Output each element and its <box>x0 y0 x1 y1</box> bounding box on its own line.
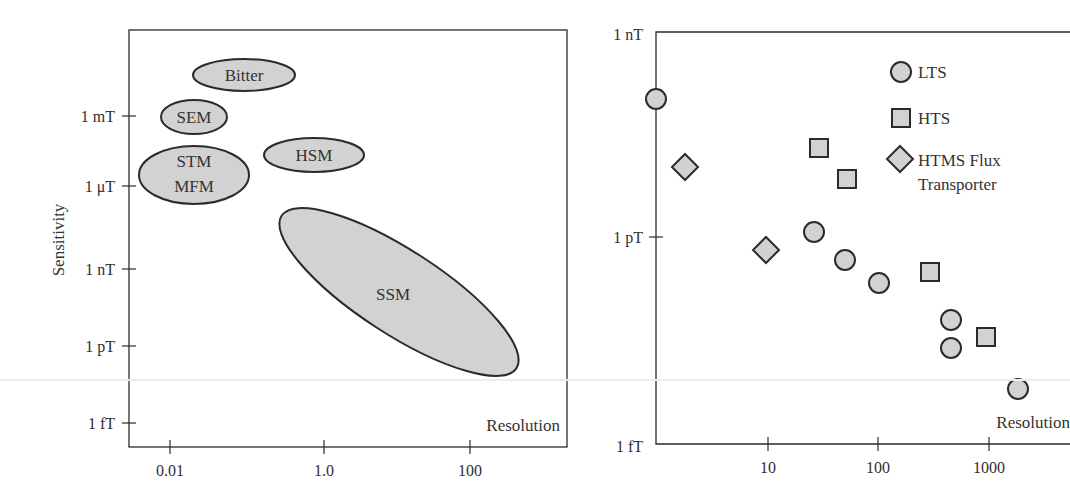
x-tick-label-0.01: 0.01 <box>156 462 184 479</box>
hts-point <box>810 139 828 157</box>
htms-point <box>753 237 779 263</box>
region-ssm: SSM <box>259 181 540 404</box>
region-sem: SEM <box>161 100 227 134</box>
legend-item-lts: LTS <box>891 62 947 82</box>
right-x-axis: 10 100 1000 <box>760 437 1005 476</box>
left-x-axis: 0.01 1.0 100 <box>156 440 482 479</box>
region-hsm: HSM <box>264 138 364 172</box>
lts-point <box>646 89 666 109</box>
diamond-marker-icon <box>887 146 913 172</box>
hts-point <box>838 170 856 188</box>
x-tick-label-100: 100 <box>458 462 482 479</box>
y-tick-label-nT: 1 nT <box>85 261 115 278</box>
lts-point <box>804 222 824 242</box>
legend-label-line1: HTMS Flux <box>918 151 1001 170</box>
legend: LTS HTS HTMS Flux Transporter <box>887 62 1001 194</box>
region-label: SSM <box>376 285 410 304</box>
region-label-line1: STM <box>177 152 212 171</box>
htms-point <box>672 154 698 180</box>
legend-item-htms: HTMS Flux Transporter <box>887 146 1001 194</box>
x-tick-label-1000: 1000 <box>973 459 1005 476</box>
square-marker-icon <box>892 109 910 127</box>
y-tick-label-mT: 1 mT <box>81 108 115 125</box>
legend-label: LTS <box>918 63 947 82</box>
hts-point <box>977 328 995 346</box>
y-tick-label-nT: 1 nT <box>613 26 643 43</box>
y-tick-label-pT: 1 pT <box>85 338 115 356</box>
lts-point <box>941 338 961 358</box>
region-label-line2: MFM <box>174 177 214 196</box>
y-tick-label-fT: 1 fT <box>88 415 115 432</box>
y-axis-title: Sensitivity <box>49 203 68 276</box>
lts-point <box>1008 379 1028 399</box>
right-plot-frame <box>656 32 1070 444</box>
region-bitter: Bitter <box>193 59 295 91</box>
x-tick-label-10: 10 <box>760 459 776 476</box>
legend-label: HTS <box>918 109 950 128</box>
left-chart: 1 mT 1 μT 1 nT 1 pT 1 fT 0.01 1.0 100 Se… <box>49 30 567 479</box>
hts-point <box>921 263 939 281</box>
series-lts <box>646 89 1028 399</box>
x-tick-label-1.0: 1.0 <box>314 462 334 479</box>
figure-canvas: 1 mT 1 μT 1 nT 1 pT 1 fT 0.01 1.0 100 Se… <box>0 0 1070 501</box>
region-label: HSM <box>296 146 333 165</box>
left-y-axis: 1 mT 1 μT 1 nT 1 pT 1 fT <box>81 108 136 432</box>
x-axis-title: Resolution <box>486 416 560 435</box>
legend-label-line2: Transporter <box>918 175 997 194</box>
region-label: Bitter <box>225 66 264 85</box>
y-tick-label-fT: 1 fT <box>616 438 643 455</box>
x-tick-label-100: 100 <box>866 459 890 476</box>
y-tick-label-pT: 1 pT <box>613 229 643 247</box>
y-tick-label-uT: 1 μT <box>85 178 116 196</box>
lts-point <box>941 310 961 330</box>
legend-item-hts: HTS <box>892 109 950 128</box>
region-stm-mfm: STM MFM <box>139 146 249 204</box>
lts-point <box>869 273 889 293</box>
right-chart: 1 nT 1 pT 1 fT 10 100 1000 Resolution <box>613 26 1070 476</box>
series-htms-flux-transporter <box>672 154 779 263</box>
region-label: SEM <box>177 108 212 127</box>
circle-marker-icon <box>891 62 911 82</box>
x-axis-title: Resolution <box>996 413 1070 432</box>
lts-point <box>835 250 855 270</box>
